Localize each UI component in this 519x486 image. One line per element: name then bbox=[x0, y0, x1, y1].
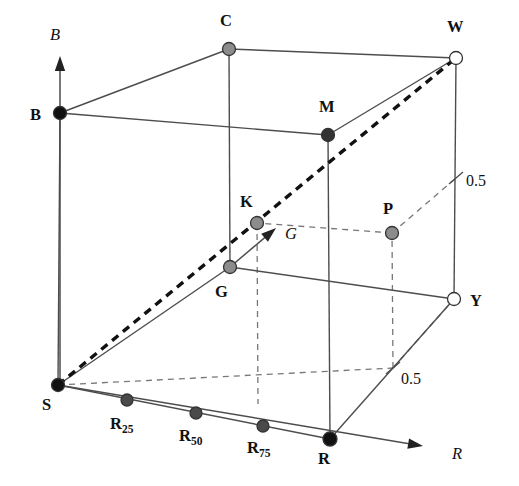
red-axis-label: R bbox=[451, 444, 462, 463]
vertex-label-G: G bbox=[215, 282, 228, 301]
edge-B-M bbox=[60, 113, 328, 135]
vertex-node-C[interactable] bbox=[223, 43, 236, 56]
vertex-label-R: R bbox=[318, 449, 331, 468]
red-axis-arrowhead bbox=[407, 438, 423, 448]
edge-B-C bbox=[60, 49, 229, 113]
edge-hidden-top-W bbox=[392, 178, 456, 233]
vertex-node-B[interactable] bbox=[54, 107, 67, 120]
edge-K-down bbox=[257, 223, 258, 404]
edge-S-hidden-corner bbox=[58, 368, 393, 385]
vertex-label-W: W bbox=[447, 17, 464, 36]
vertex-label-B: B bbox=[30, 105, 41, 124]
vertex-node-R[interactable] bbox=[323, 432, 337, 446]
rgb-color-cube-figure: SBCWMKGPYRR25R50R75 BGR 0.50.5 bbox=[0, 0, 519, 486]
edge-C-W bbox=[229, 49, 456, 58]
vertex-label-M: M bbox=[319, 97, 335, 116]
vertex-node-W[interactable] bbox=[450, 52, 463, 65]
vertex-label-R50: R50 bbox=[179, 426, 203, 447]
vertex-node-P[interactable] bbox=[386, 227, 399, 240]
vertex-label-C: C bbox=[220, 11, 232, 30]
blue-axis-label: B bbox=[50, 25, 60, 44]
edge-M-W bbox=[328, 58, 456, 135]
vertex-label-R75: R75 bbox=[247, 438, 271, 459]
vertex-node-S[interactable] bbox=[52, 379, 65, 392]
vertex-label-P: P bbox=[383, 199, 393, 218]
tick-marks-group bbox=[386, 172, 463, 374]
green-half-tick-label: 0.5 bbox=[401, 370, 421, 387]
axes-group bbox=[55, 56, 423, 449]
tick-labels-group: 0.50.5 bbox=[401, 172, 486, 387]
edge-M-R bbox=[328, 135, 330, 439]
green-axis-label: G bbox=[285, 224, 297, 243]
edge-C-G bbox=[229, 49, 230, 267]
vertex-node-R50[interactable] bbox=[190, 407, 202, 419]
vertex-label-K: K bbox=[240, 192, 253, 211]
edge-hidden-top-K bbox=[257, 223, 392, 233]
vertex-node-R75[interactable] bbox=[257, 420, 269, 432]
vertex-node-Y[interactable] bbox=[448, 293, 461, 306]
edge-S-G bbox=[58, 267, 230, 385]
edge-hidden-corner-up bbox=[392, 233, 393, 368]
blue-half-tick-mark bbox=[449, 172, 463, 184]
blue-half-tick-label: 0.5 bbox=[466, 172, 486, 189]
vertex-label-R25: R25 bbox=[110, 414, 134, 435]
vertex-node-R25[interactable] bbox=[121, 394, 133, 406]
vertex-label-S: S bbox=[42, 395, 51, 414]
vertex-label-Y: Y bbox=[470, 291, 482, 310]
vertex-node-K[interactable] bbox=[251, 217, 264, 230]
cube-diagram-canvas: SBCWMKGPYRR25R50R75 BGR 0.50.5 bbox=[0, 0, 519, 486]
edge-G-Y bbox=[230, 267, 454, 299]
vertex-labels-group: SBCWMKGPYRR25R50R75 bbox=[30, 11, 482, 468]
vertex-node-M[interactable] bbox=[322, 129, 335, 142]
vertex-node-G[interactable] bbox=[224, 261, 237, 274]
blue-axis-arrowhead bbox=[55, 56, 65, 71]
